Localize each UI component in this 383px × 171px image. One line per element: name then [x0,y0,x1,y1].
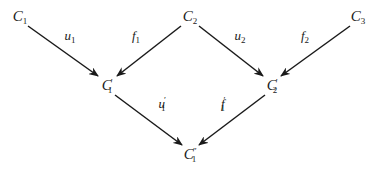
edge-label-u1-prime: u′1 [159,96,166,113]
arrow-C2-to-C2p [199,26,263,76]
node-C2: C2 [183,9,198,26]
node-C1pp-prime: ″ [193,146,197,156]
edge-label-f1-prime: f′1 [221,96,225,113]
node-C3-base: C [351,8,361,24]
edge-label-u2: u2 [235,29,246,45]
node-C2-base: C [183,8,193,24]
arrow-C3-to-C2p [281,26,350,76]
commutative-diagram: u1f1u2f2u′1f′1C1C2C3C′1C′2C″1 [0,0,383,171]
node-C3: C3 [351,9,366,26]
arrow-C2p-to-C1pp [199,95,265,145]
node-C1p-prime: ′ [111,77,113,87]
node-C2p: C′2 [267,78,277,95]
edge-label-f1-prime-prime: ′ [224,95,226,105]
edge-label-f1-subscript: 1 [136,35,141,45]
node-C3-subscript: 3 [361,16,366,26]
node-C1pp: C″1 [184,147,196,164]
arrow-C1-to-C1p [28,26,98,76]
node-C1-subscript: 1 [23,16,28,26]
arrow-C2-to-C1p [117,26,181,76]
arrow-C1p-to-C1pp [115,95,182,145]
node-C1p: C′1 [102,78,112,95]
node-C1: C1 [13,9,28,26]
node-C2p-prime: ′ [276,77,278,87]
edge-label-u1: u1 [65,29,76,45]
node-C1-base: C [13,8,23,24]
edge-label-f1: f1 [132,29,140,45]
edge-label-f2-subscript: 2 [305,35,310,45]
edge-label-u1-subscript: 1 [71,35,76,45]
edge-label-f2: f2 [301,29,309,45]
edge-label-u2-subscript: 2 [241,35,246,45]
node-C2-subscript: 2 [193,16,198,26]
